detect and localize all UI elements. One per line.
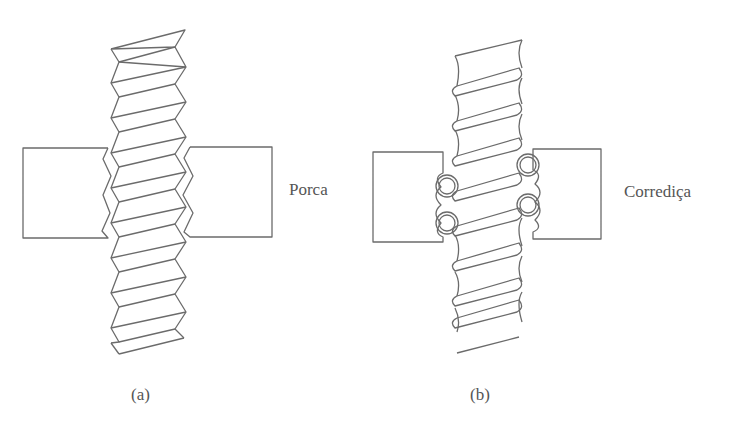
panel-b-screw	[452, 40, 522, 353]
label-porca: Porca	[289, 180, 328, 200]
diagram-canvas	[0, 0, 736, 424]
caption-b: (b)	[470, 385, 490, 405]
caption-a: (a)	[131, 385, 150, 405]
panel-b-balls	[436, 154, 539, 234]
label-corredica: Corrediça	[624, 182, 691, 202]
panel-a-screw	[111, 30, 186, 354]
